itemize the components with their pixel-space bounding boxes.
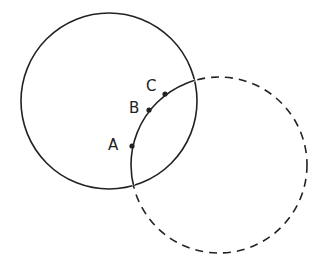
circle-2-solid-arc-bg xyxy=(131,77,307,253)
diagram-canvas: ABC xyxy=(0,0,319,270)
point-c-marker xyxy=(162,91,167,96)
circle-1 xyxy=(21,13,197,189)
point-a-marker xyxy=(129,143,134,148)
point-c-label: C xyxy=(146,77,156,95)
point-b-marker xyxy=(146,107,151,112)
point-a-label: A xyxy=(108,136,119,154)
point-b-label: B xyxy=(129,99,139,117)
points-group: ABC xyxy=(108,77,168,154)
diagram: ABC xyxy=(0,0,319,270)
